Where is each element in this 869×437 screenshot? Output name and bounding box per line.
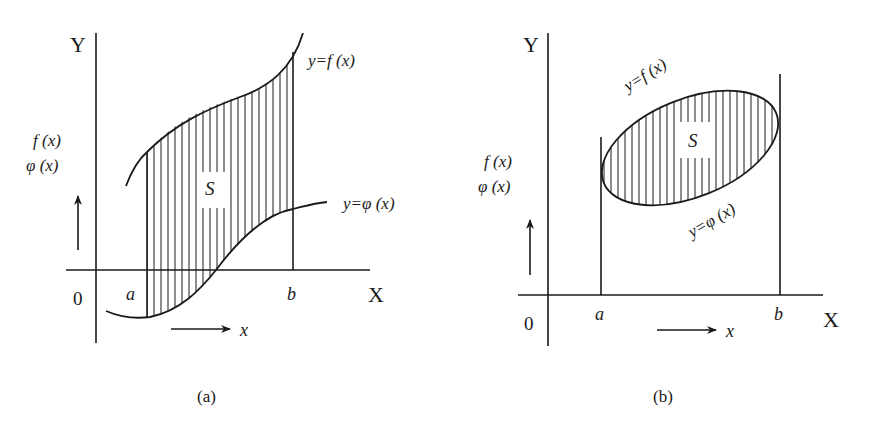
direction-label: x [239,320,248,340]
lower-curve-label: y=φ (x) [341,194,395,213]
lower-curve-label: y=φ (x) [683,199,739,242]
region-label: S [205,178,215,199]
x-axis-label: X [368,282,384,307]
upper-curve-label: y=f (x) [618,54,670,96]
panel-caption: (b) [653,387,673,406]
bound-label-a: a [595,304,604,324]
left-label-phi: φ (x) [26,156,59,175]
upper-curve-label: y=f (x) [306,51,355,70]
bound-label-b: b [774,304,783,324]
panel-caption: (a) [197,387,216,406]
panel-b: Y X 0 f (x) φ (x) y=f (x) y=φ (x) S a b … [478,32,839,406]
region-label: S [688,130,698,151]
direction-label: x [725,321,734,341]
panel-a: Y X 0 f (x) φ (x) y=f (x) y=φ (x) S a b … [26,20,395,406]
curve-f [126,33,303,186]
left-label-phi: φ (x) [478,177,511,196]
x-axis-label: X [823,307,839,332]
area-between-curves-figure: Y X 0 f (x) φ (x) y=f (x) y=φ (x) S a b … [0,0,869,437]
origin-label: 0 [73,288,83,309]
bound-label-a: a [126,284,135,304]
y-axis-label: Y [70,32,86,57]
origin-label: 0 [524,313,534,334]
bound-label-b: b [287,284,296,304]
left-label-f: f (x) [33,131,61,150]
y-axis-label: Y [523,32,539,57]
left-label-f: f (x) [484,152,512,171]
